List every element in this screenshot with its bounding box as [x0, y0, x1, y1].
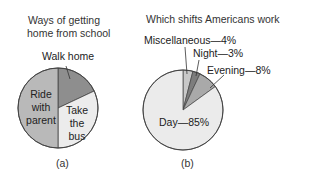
label-ride-line2: with	[22, 101, 60, 114]
label-ride-line1: Ride	[22, 88, 60, 101]
label-take-the-bus: Take the bus	[62, 104, 92, 143]
chart-b-title: Which shifts Americans work	[146, 13, 280, 26]
chart-b-caption: (b)	[181, 157, 194, 169]
label-day: Day—85%	[159, 116, 209, 128]
chart-a-title: Ways of getting home from school	[27, 14, 101, 40]
label-ride-line3: parent	[22, 114, 60, 127]
label-ride-with-parent: Ride with parent	[22, 88, 60, 127]
label-bus-line2: the	[62, 117, 92, 130]
chart-a-title-line2: home from school	[27, 27, 101, 40]
label-walk-home: Walk home	[42, 50, 94, 62]
label-night: Night—3%	[193, 47, 243, 59]
label-bus-line1: Take	[62, 104, 92, 117]
chart-a-title-line1: Ways of getting	[27, 14, 101, 27]
evening-leader-line	[210, 75, 224, 88]
label-miscellaneous: Miscellaneous—4%	[144, 34, 236, 46]
chart-a-caption: (a)	[56, 157, 69, 169]
label-evening: Evening—8%	[207, 64, 271, 76]
label-bus-line3: bus	[62, 130, 92, 143]
pie-b	[143, 47, 224, 150]
